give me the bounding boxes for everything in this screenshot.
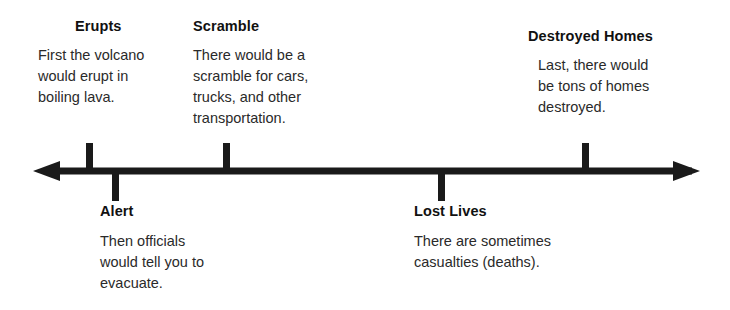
event-body-lost-lives: There are sometimes casualties (deaths). bbox=[414, 231, 604, 273]
tick-alert bbox=[112, 174, 119, 201]
event-scramble: Scramble There would be a scramble for c… bbox=[193, 18, 343, 129]
event-title-lost-lives: Lost Lives bbox=[414, 203, 604, 220]
event-erupts: Erupts First the volcano would erupt in … bbox=[38, 18, 183, 108]
event-body-alert: Then officials would tell you to evacuat… bbox=[100, 231, 250, 294]
event-body-destroyed-homes: Last, there would be tons of homes destr… bbox=[538, 55, 688, 118]
event-alert: Alert Then officials would tell you to e… bbox=[100, 203, 250, 294]
event-title-alert: Alert bbox=[100, 203, 250, 220]
event-destroyed-homes: Destroyed Homes Last, there would be ton… bbox=[528, 28, 688, 118]
event-body-scramble: There would be a scramble for cars, truc… bbox=[193, 45, 343, 129]
timeline-diagram: Erupts First the volcano would erupt in … bbox=[0, 0, 730, 310]
right-arrowhead bbox=[673, 161, 700, 181]
event-title-erupts: Erupts bbox=[75, 18, 183, 35]
tick-scramble bbox=[223, 143, 230, 171]
left-arrowhead bbox=[33, 161, 60, 181]
tick-destroyed-homes bbox=[582, 143, 589, 171]
event-title-scramble: Scramble bbox=[193, 18, 343, 35]
event-body-erupts: First the volcano would erupt in boiling… bbox=[38, 45, 183, 108]
timeline-shaft bbox=[50, 168, 692, 175]
tick-lost-lives bbox=[438, 174, 445, 201]
event-title-destroyed-homes: Destroyed Homes bbox=[528, 28, 688, 45]
event-lost-lives: Lost Lives There are sometimes casualtie… bbox=[414, 203, 604, 273]
tick-erupts bbox=[86, 143, 93, 171]
